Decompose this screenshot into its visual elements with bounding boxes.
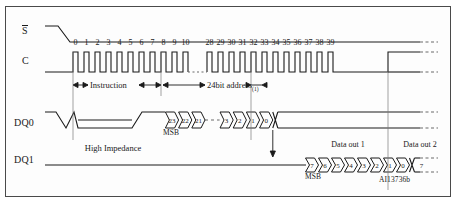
dq1-data-out-1-bit: 0 (395, 162, 411, 170)
signal-label-dq1: DQ1 (14, 155, 34, 165)
high-impedance-label: High Impedance (68, 144, 158, 153)
address-label-note: (1) (252, 86, 258, 92)
clock-cycle-number: 10 (179, 39, 193, 47)
figure-id-label: AI13736b (379, 176, 410, 184)
dq1-data-out-2-bit: 7 (414, 162, 430, 170)
signal-label-clock: C (22, 56, 29, 66)
dq0-address-bit: 21 (190, 117, 206, 125)
dq0-address-bit: 0 (258, 117, 274, 125)
phase-label-address: 24bit address(1) (207, 81, 259, 92)
signal-label-chip-select: S (22, 25, 28, 37)
address-label-text: 24bit address (207, 80, 252, 90)
clock-cycle-number: 39 (324, 39, 338, 47)
data-out-1-label: Data out 1 (313, 141, 383, 149)
phase-label-instruction: Instruction (90, 81, 127, 90)
timing-diagram-figure: S C DQ0 DQ1 0123456789102829303132333435… (0, 0, 457, 205)
data-out-2-label: Data out 2 (385, 141, 455, 149)
signal-label-dq0: DQ0 (14, 118, 34, 128)
dq0-msb-label: MSB (156, 129, 186, 137)
dq1-msb-label: MSB (298, 173, 328, 181)
